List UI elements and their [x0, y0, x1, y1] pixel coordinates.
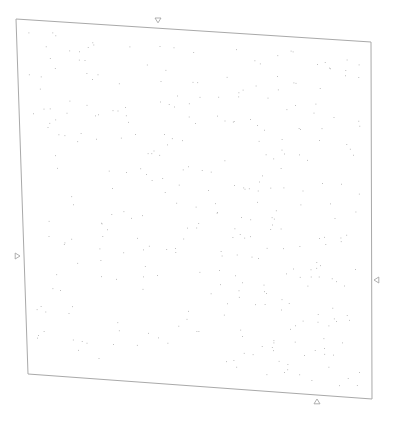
speck [234, 185, 235, 186]
speck [158, 338, 159, 339]
speck [341, 241, 342, 242]
speck [241, 217, 242, 218]
triangle-down-icon [155, 18, 161, 23]
speck [59, 134, 60, 135]
speck [296, 83, 297, 84]
speck [87, 105, 88, 106]
speck [200, 97, 201, 98]
speck [78, 350, 79, 351]
speck [274, 340, 275, 341]
speck [199, 331, 200, 332]
speck [299, 155, 300, 156]
speck [177, 96, 178, 97]
speck [45, 312, 46, 313]
speck [221, 251, 222, 252]
speck [335, 218, 336, 219]
speck [250, 219, 251, 220]
speck [65, 135, 66, 136]
speck [137, 345, 138, 346]
speck [239, 297, 240, 298]
speck [334, 319, 335, 320]
speck [324, 338, 325, 339]
speck [211, 172, 212, 173]
speck [188, 311, 189, 312]
speck [143, 250, 144, 251]
speck [99, 358, 100, 359]
speck [73, 204, 74, 205]
speck [193, 82, 194, 83]
speck [93, 45, 94, 46]
speck [217, 212, 218, 213]
speck [258, 258, 259, 259]
speck [276, 210, 277, 211]
speck [252, 257, 253, 258]
speck [143, 277, 144, 278]
speck [318, 322, 319, 323]
speck [307, 160, 308, 161]
speck [324, 237, 325, 238]
speck [165, 192, 166, 193]
speck [29, 74, 30, 75]
speck [188, 166, 189, 167]
speck [304, 355, 305, 356]
speck [319, 238, 320, 239]
speck [118, 111, 119, 112]
speck [234, 121, 235, 122]
speck [218, 97, 219, 98]
speck [356, 212, 357, 213]
speck [225, 160, 226, 161]
speck [187, 319, 188, 320]
speck [329, 326, 330, 327]
speck [341, 238, 342, 239]
speck [346, 144, 347, 145]
speck [330, 204, 331, 205]
speck [79, 60, 80, 61]
speck [49, 236, 50, 237]
speck [126, 115, 127, 116]
speck [308, 286, 309, 287]
speck [176, 203, 177, 204]
speck [243, 90, 244, 91]
speck [183, 239, 184, 240]
speck [172, 138, 173, 139]
speck [71, 239, 72, 240]
speck [240, 234, 241, 235]
speck [233, 237, 234, 238]
speck [334, 117, 335, 118]
speck [69, 313, 70, 314]
triangle-left-icon [374, 277, 379, 283]
speck [193, 52, 194, 53]
speck [211, 293, 212, 294]
speck [319, 277, 320, 278]
speck [142, 215, 143, 216]
speck [72, 306, 73, 307]
speck [270, 229, 271, 230]
speck [196, 207, 197, 208]
speck [166, 249, 167, 250]
speck [300, 129, 301, 130]
speck [119, 83, 120, 84]
speck [162, 178, 163, 179]
speck [113, 344, 114, 345]
speck [85, 60, 86, 61]
speck [264, 285, 265, 286]
speck [242, 282, 243, 283]
speck [295, 342, 296, 343]
speck [48, 127, 49, 128]
speck [227, 303, 228, 304]
speck [175, 248, 176, 249]
speck [301, 205, 302, 206]
speck [98, 74, 99, 75]
speck [341, 184, 342, 185]
speck [73, 340, 74, 341]
speck [160, 102, 161, 103]
speck [278, 90, 279, 91]
speck [272, 225, 273, 226]
speck [77, 263, 78, 264]
speck [250, 119, 251, 120]
speck [29, 33, 30, 34]
speck [55, 35, 56, 36]
speck [345, 75, 346, 76]
speck [98, 114, 99, 115]
speck [281, 168, 282, 169]
